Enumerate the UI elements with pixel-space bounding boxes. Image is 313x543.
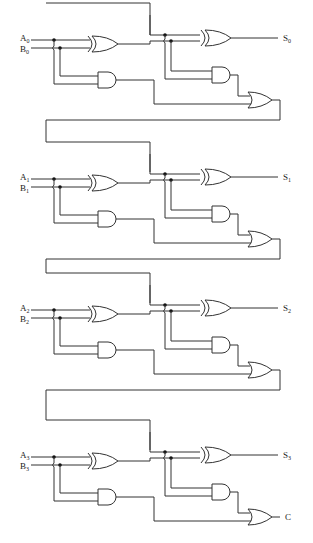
xor-gate	[88, 306, 118, 322]
and1-to-or-wire	[116, 350, 252, 374]
carry-out-label: C	[285, 512, 291, 522]
full-adder-stage-0: A0B0S0	[20, 3, 291, 172]
input-label-a3: A3	[20, 450, 30, 461]
half-sum-wire	[118, 180, 200, 183]
and-gate	[212, 67, 230, 83]
input-label-a0: A0	[20, 33, 30, 44]
half-sum-wire	[118, 41, 200, 44]
xor-gate	[88, 453, 118, 469]
and2-to-or-wire	[230, 492, 250, 513]
xor-gate	[88, 175, 118, 191]
and2-to-or-wire	[230, 75, 250, 96]
carry-loop-wire	[46, 239, 280, 303]
and-gate	[98, 489, 116, 505]
input-label-b0: B0	[20, 44, 29, 55]
carry-loop-wire	[46, 100, 280, 172]
xor-gate	[201, 30, 231, 46]
xor-gate	[88, 36, 118, 52]
input-label-b3: B3	[20, 461, 29, 472]
adder-circuit-diagram: A0B0S0A1B1S1A2B2S2A3B3S3C	[0, 0, 313, 543]
xor-gate	[201, 300, 231, 316]
and2-to-or-wire	[230, 345, 250, 366]
input-label-a2: A2	[20, 303, 30, 314]
or-gate	[248, 362, 272, 378]
sum-label-s2: S2	[283, 303, 291, 314]
half-sum-wire	[118, 458, 200, 461]
input-label-b1: B1	[20, 183, 29, 194]
and-gate	[212, 206, 230, 222]
half-sum-wire	[118, 311, 200, 314]
and1-to-or-wire	[116, 497, 252, 521]
or-gate	[248, 231, 272, 247]
full-adder-stage-1: A1B1S1	[20, 154, 291, 303]
and1-to-or-wire	[116, 80, 252, 104]
sum-label-s0: S0	[283, 33, 291, 44]
carry-in-initial-wire	[46, 3, 150, 35]
and-gate	[98, 211, 116, 227]
and1-to-or-wire	[116, 219, 252, 243]
full-adder-stage-3: A3B3S3C	[20, 432, 291, 525]
xor-gate	[201, 169, 231, 185]
sum-label-s1: S1	[283, 172, 291, 183]
and-gate	[212, 484, 230, 500]
and-gate	[212, 337, 230, 353]
full-adder-stage-2: A2B2S2	[20, 285, 291, 450]
input-label-a1: A1	[20, 172, 30, 183]
xor-gate	[201, 447, 231, 463]
input-label-b2: B2	[20, 314, 29, 325]
or-gate	[248, 509, 272, 525]
and-gate	[98, 342, 116, 358]
or-gate	[248, 92, 272, 108]
sum-label-s3: S3	[283, 450, 291, 461]
and-gate	[98, 72, 116, 88]
and2-to-or-wire	[230, 214, 250, 235]
carry-loop-wire	[46, 370, 280, 450]
